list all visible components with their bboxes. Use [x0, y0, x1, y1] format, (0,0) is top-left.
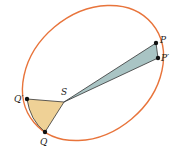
kepler-diagram: S P P′ Q′ Q: [0, 0, 182, 158]
point-q: [43, 130, 47, 134]
label-q-prime: Q′: [14, 94, 23, 104]
label-p-prime: P′: [160, 53, 169, 63]
sector-far-aphelion: [64, 43, 158, 102]
label-sun: S: [61, 87, 67, 97]
point-q-prime: [25, 97, 29, 101]
sector-near-perihelion: [27, 99, 64, 132]
label-q: Q: [40, 137, 48, 147]
orbit-ellipse: [0, 0, 182, 158]
point-p-prime: [156, 56, 160, 60]
label-p: P: [159, 35, 167, 45]
point-p: [154, 41, 158, 45]
